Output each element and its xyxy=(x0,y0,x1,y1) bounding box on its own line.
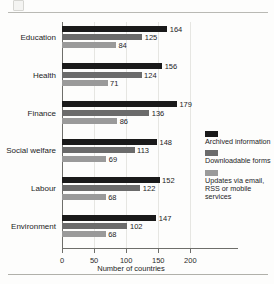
bar-row: 147 xyxy=(62,215,260,221)
bar-row: 179 xyxy=(62,101,260,107)
bar-value-label: 102 xyxy=(130,222,143,231)
x-tick-50 xyxy=(94,249,95,253)
bar[interactable] xyxy=(62,72,142,78)
category-label: Health xyxy=(33,70,56,79)
bar-value-label: 125 xyxy=(145,32,158,41)
bar-value-label: 156 xyxy=(165,62,178,71)
bar[interactable] xyxy=(62,63,162,69)
bar-row: 102 xyxy=(62,223,260,229)
legend-label: Updates via email, RSS or mobile service… xyxy=(205,177,271,202)
bar-row: 86 xyxy=(62,118,260,124)
x-axis-line xyxy=(62,248,238,249)
bar-group: Environment14710268 xyxy=(62,215,260,238)
bar[interactable] xyxy=(62,185,140,191)
legend-item[interactable]: Archived information xyxy=(205,131,271,146)
bar-value-label: 113 xyxy=(137,146,149,155)
bar-value-label: 124 xyxy=(144,70,157,79)
bar-group: Health15612471 xyxy=(62,63,260,86)
bar[interactable] xyxy=(62,147,135,153)
figure-container: 050100150200 Education16412584Health1561… xyxy=(0,0,274,284)
bar-value-label: 164 xyxy=(170,24,183,33)
bar-row: 84 xyxy=(62,42,260,48)
bar-row: 124 xyxy=(62,72,260,78)
bar-value-label: 147 xyxy=(159,213,172,222)
bar-row: 164 xyxy=(62,26,260,32)
bar[interactable] xyxy=(62,80,108,86)
bar-value-label: 68 xyxy=(108,192,116,201)
bar-group: Education16412584 xyxy=(62,26,260,49)
bar-value-label: 86 xyxy=(120,116,128,125)
chart-legend: Archived informationDownloadable formsUp… xyxy=(205,131,271,205)
bar-row: 125 xyxy=(62,34,260,40)
bar-group: Finance17913686 xyxy=(62,101,260,124)
bar-value-label: 122 xyxy=(143,184,156,193)
bar-row: 156 xyxy=(62,63,260,69)
bar-row: 68 xyxy=(62,231,260,237)
legend-item[interactable]: Downloadable forms xyxy=(205,150,271,165)
bar[interactable] xyxy=(62,42,116,48)
x-tick-0 xyxy=(62,249,63,253)
legend-item[interactable]: Updates via email, RSS or mobile service… xyxy=(205,170,271,202)
category-label: Environment xyxy=(11,222,56,231)
bar[interactable] xyxy=(62,26,167,32)
legend-swatch xyxy=(205,170,218,176)
category-label: Education xyxy=(20,32,56,41)
bar-value-label: 148 xyxy=(159,138,172,147)
bar-row: 136 xyxy=(62,110,260,116)
bar[interactable] xyxy=(62,139,157,145)
bar-value-label: 152 xyxy=(162,175,175,184)
bar[interactable] xyxy=(62,177,160,183)
bar[interactable] xyxy=(62,223,127,229)
bar[interactable] xyxy=(62,101,177,107)
bar-value-label: 68 xyxy=(108,230,116,239)
bottom-divider-rule xyxy=(8,274,268,275)
bar-value-label: 71 xyxy=(110,79,118,88)
bar[interactable] xyxy=(62,194,106,200)
x-tick-100 xyxy=(126,249,127,253)
bar[interactable] xyxy=(62,215,156,221)
x-tick-200 xyxy=(190,249,191,253)
category-label: Finance xyxy=(28,108,56,117)
bar-value-label: 84 xyxy=(118,41,126,50)
bar-value-label: 69 xyxy=(109,154,117,163)
bar-row: 71 xyxy=(62,80,260,86)
legend-label: Archived information xyxy=(205,138,271,146)
top-divider-rule xyxy=(8,12,268,13)
figure-number-badge xyxy=(13,0,24,11)
plot-area: 050100150200 Education16412584Health1561… xyxy=(62,22,200,249)
category-label: Labour xyxy=(31,184,56,193)
bar[interactable] xyxy=(62,118,117,124)
category-label: Social welfare xyxy=(6,146,56,155)
bar[interactable] xyxy=(62,110,149,116)
bar-value-label: 136 xyxy=(152,108,165,117)
legend-label: Downloadable forms xyxy=(205,157,271,165)
bar-value-label: 179 xyxy=(179,100,192,109)
bar[interactable] xyxy=(62,34,142,40)
x-tick-150 xyxy=(158,249,159,253)
x-axis-title: Number of countries xyxy=(62,264,200,273)
bar[interactable] xyxy=(62,231,106,237)
bar[interactable] xyxy=(62,156,106,162)
